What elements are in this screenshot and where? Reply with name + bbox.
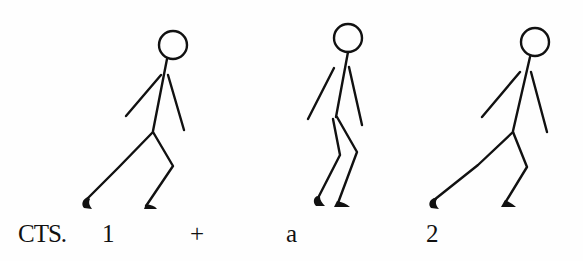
torso <box>513 57 530 131</box>
left-arm <box>126 75 161 116</box>
stick-figure-1 <box>87 31 187 206</box>
foot-1-back <box>82 197 92 209</box>
stick-figure-3 <box>434 28 549 203</box>
count-1: 1 <box>102 221 115 246</box>
torso <box>336 52 348 117</box>
foot-3-back <box>429 198 439 209</box>
front-leg <box>337 117 357 203</box>
back-leg <box>434 132 513 200</box>
head-icon <box>159 31 187 59</box>
left-arm <box>308 68 334 119</box>
right-arm <box>349 67 362 125</box>
stick-figure-2 <box>308 24 362 203</box>
counts-prefix: CTS. <box>18 221 66 246</box>
front-leg <box>505 132 527 203</box>
count-and: + <box>190 221 204 246</box>
foot-2-front <box>334 201 350 207</box>
torso <box>153 59 167 131</box>
back-leg <box>318 119 340 198</box>
foot-2-back <box>314 196 325 206</box>
foot-1-front <box>144 204 157 209</box>
foot-3-front <box>501 200 516 207</box>
right-arm <box>531 72 547 132</box>
count-2: 2 <box>426 221 439 246</box>
dance-step-diagram: CTS. 1 + a 2 <box>0 0 583 261</box>
left-arm <box>482 72 520 117</box>
head-icon <box>521 28 549 56</box>
count-a: a <box>286 221 297 246</box>
right-arm <box>168 75 184 130</box>
front-leg <box>146 132 173 206</box>
head-icon <box>334 24 362 52</box>
back-leg <box>87 132 153 199</box>
